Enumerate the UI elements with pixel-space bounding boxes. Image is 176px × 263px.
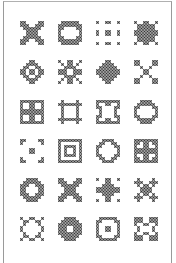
motif-ring-with-center: [20, 60, 44, 84]
cross-stitch-icon: [20, 21, 44, 45]
motif-round-ring-thick: [20, 178, 44, 202]
motif-square-corner-dots: [96, 100, 120, 124]
cross-stitch-icon: [134, 60, 158, 84]
motif-hash-frame: [58, 100, 82, 124]
cross-stitch-icon: [96, 21, 120, 45]
motif-snowflake: [134, 178, 158, 202]
cross-stitch-icon: [58, 139, 82, 163]
motif-plus-cross: [96, 178, 120, 202]
motif-four-corner-x: [134, 60, 158, 84]
motif-square-ring-round: [58, 21, 82, 45]
cross-stitch-icon: [96, 178, 120, 202]
motif-open-octagon-x: [20, 217, 44, 241]
motif-open-x-diamond: [58, 60, 82, 84]
motif-checker-square: [134, 139, 158, 163]
motif-circle-ring: [134, 100, 158, 124]
motif-star-solid: [134, 21, 158, 45]
motif-diamond-solid: [96, 60, 120, 84]
cross-stitch-icon: [134, 139, 158, 163]
cross-stitch-icon: [134, 178, 158, 202]
cross-stitch-icon: [58, 21, 82, 45]
cross-stitch-icon: [20, 60, 44, 84]
cross-stitch-icon: [96, 139, 120, 163]
cross-stitch-icon: [134, 100, 158, 124]
motif-square-inner-square: [96, 217, 120, 241]
motif-dotted-3x3-grid: [96, 21, 120, 45]
cross-stitch-icon: [96, 217, 120, 241]
cross-stitch-icon: [58, 178, 82, 202]
cross-stitch-icon: [134, 21, 158, 45]
cross-stitch-icon: [20, 139, 44, 163]
cross-stitch-icon: [134, 217, 158, 241]
cross-stitch-icon: [58, 60, 82, 84]
motif-octagon-ring: [96, 139, 120, 163]
cross-stitch-icon: [20, 217, 44, 241]
motif-x-with-center: [58, 178, 82, 202]
cross-stitch-icon: [96, 100, 120, 124]
motif-double-square: [58, 139, 82, 163]
motif-x-cross-solid: [20, 21, 44, 45]
cross-stitch-icon: [20, 100, 44, 124]
motif-thick-ring: [58, 217, 82, 241]
cross-stitch-icon: [96, 60, 120, 84]
cross-stitch-icon: [58, 100, 82, 124]
motif-square-four-holes: [20, 100, 44, 124]
motif-square-corner-blocks: [134, 217, 158, 241]
cross-stitch-icon: [58, 217, 82, 241]
cross-stitch-icon: [20, 178, 44, 202]
motif-corner-brackets-dot: [20, 139, 44, 163]
